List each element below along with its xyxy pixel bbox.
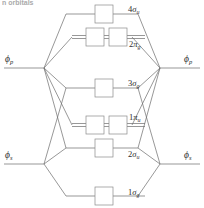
ao-label-phi-p-right: ϕp — [184, 55, 192, 65]
mo-label-2pi-g: 2πg — [129, 40, 141, 49]
ao-label-phi-s-left: ϕs — [5, 151, 12, 161]
electron-box-1pi-u-left — [86, 116, 104, 134]
mo-label-3sigma-g: 3σg — [128, 79, 139, 88]
electron-box-2sigma-u — [95, 139, 113, 157]
corr-right-s-to-3sigma-g — [138, 88, 160, 164]
electron-box-2pi-g-left — [86, 28, 104, 46]
electron-box-1sigma-g — [95, 187, 113, 205]
corr-left-s-to-3sigma-g — [44, 88, 66, 164]
corr-left-s-to-1sigma-g — [44, 164, 66, 196]
corr-left-p-to-4sigma-u — [44, 14, 66, 68]
ao-label-phi-s-right-sub: s — [189, 154, 192, 161]
electron-box-1pi-u-right — [109, 116, 127, 134]
mo-label-2pi-g-sub: g — [138, 44, 141, 50]
mo-label-2sigma-u: 2σu — [128, 150, 139, 159]
mo-label-1sigma-g: 1σg — [128, 188, 139, 197]
corr-right-p-to-2sigma-u — [138, 68, 160, 148]
corr-left-p-to-2sigma-u — [44, 68, 66, 148]
mo-label-4sigma-u: 4σu — [128, 5, 139, 14]
electron-box-3sigma-g — [95, 79, 113, 97]
corr-right-p-to-3sigma-g — [138, 68, 160, 88]
ao-label-phi-s-right: ϕs — [184, 151, 191, 161]
corr-right-s-to-1sigma-g — [138, 164, 160, 196]
mo-label-1pi-u-symbol: π — [133, 112, 137, 122]
corr-left-p-to-3sigma-g — [44, 68, 66, 88]
ao-label-phi-p-left: ϕp — [5, 55, 13, 65]
mo-label-2pi-g-symbol: π — [133, 39, 137, 49]
electron-box-4sigma-u — [95, 5, 113, 23]
ao-label-phi-p-right-sub: p — [189, 58, 192, 65]
corr-left-p-to-2pi-g — [44, 37, 72, 68]
mo-label-1pi-u: 1πu — [129, 113, 141, 122]
mo-diagram-canvas — [0, 0, 204, 208]
mo-label-1pi-u-sub: u — [138, 117, 141, 123]
corr-right-p-to-4sigma-u — [138, 14, 160, 68]
ao-label-phi-p-left-sub: p — [10, 58, 13, 65]
corr-right-s-to-2sigma-u — [138, 148, 160, 164]
electron-box-2pi-g-right — [109, 28, 127, 46]
corr-left-s-to-2sigma-u — [44, 148, 66, 164]
mo-diagram: n orbitals — [0, 0, 204, 208]
ao-label-phi-s-left-sub: s — [10, 154, 13, 161]
